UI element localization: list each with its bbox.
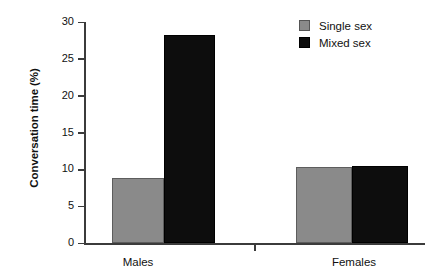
- y-axis-tick-label-30: 30: [62, 16, 74, 27]
- single-sex-swatch: [299, 20, 310, 31]
- y-axis-tick-5: [78, 206, 84, 208]
- bar-males-mixed-sex: [164, 35, 215, 243]
- y-axis-tick-label-0: 0: [68, 237, 74, 248]
- bar-females-single-sex: [296, 167, 352, 243]
- x-axis-label-females: Females: [322, 256, 386, 268]
- y-axis-tick-30: [78, 22, 84, 24]
- chart-legend: Single sex Mixed sex: [299, 17, 372, 51]
- y-axis-tick-15: [78, 132, 84, 134]
- y-axis-tick-label-25: 25: [62, 53, 74, 64]
- y-axis-tick-label-5: 5: [68, 200, 74, 211]
- y-axis-tick-25: [78, 58, 84, 60]
- legend-item-single-sex: Single sex: [299, 17, 372, 34]
- y-axis-tick-label-15: 15: [62, 127, 74, 138]
- bar-females-mixed-sex: [352, 166, 408, 243]
- legend-label-mixed-sex: Mixed sex: [319, 37, 371, 49]
- y-axis-tick-0: [78, 243, 84, 245]
- y-axis-tick-label-10: 10: [62, 163, 74, 174]
- y-axis-tick-10: [78, 169, 84, 171]
- y-axis-line: [84, 22, 86, 244]
- mixed-sex-swatch: [299, 37, 310, 48]
- x-axis-group-separator-tick: [254, 245, 256, 251]
- y-axis-tick-20: [78, 95, 84, 97]
- y-axis-label: Conversation time (%): [28, 38, 40, 218]
- x-axis-label-males: Males: [108, 256, 168, 268]
- bar-males-single-sex: [112, 178, 164, 243]
- y-axis-tick-label-20: 20: [62, 90, 74, 101]
- bar-chart-figure: Conversation time (%) 30 25 20 15 10 5 0…: [0, 0, 430, 279]
- legend-label-single-sex: Single sex: [319, 20, 372, 32]
- legend-item-mixed-sex: Mixed sex: [299, 34, 372, 51]
